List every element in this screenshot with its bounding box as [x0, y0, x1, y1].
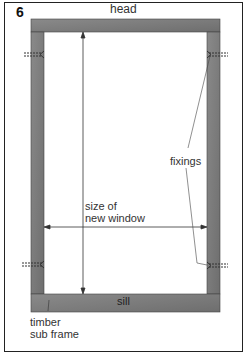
height-dimension-arrow — [81, 32, 85, 294]
frame-right-jamb — [207, 32, 220, 294]
head-label: head — [110, 3, 137, 16]
frame-left-jamb — [31, 32, 44, 294]
fixings-label: fixings — [170, 155, 201, 168]
sill-label: sill — [117, 295, 130, 308]
size-label-line2: new window — [85, 212, 145, 225]
timber-label-line2: sub frame — [30, 328, 79, 341]
frame-head — [31, 19, 220, 32]
width-dimension-arrow — [44, 225, 207, 229]
